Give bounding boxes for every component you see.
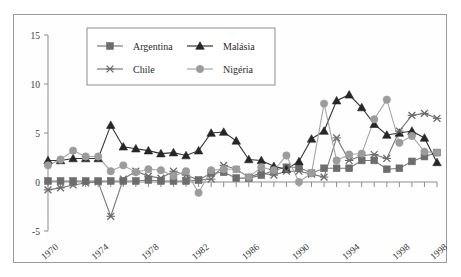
data-point [145, 166, 152, 173]
series-line-nigéria [48, 100, 437, 193]
legend-label: Chile [133, 64, 155, 75]
data-point [258, 164, 265, 171]
data-point [107, 213, 115, 220]
x-tick-label-group: 1998 [428, 242, 449, 262]
x-tick-label: 1982 [190, 242, 211, 262]
x-tick-label-group: 1990 [290, 242, 311, 262]
data-point [383, 96, 390, 103]
data-point [44, 162, 51, 169]
data-point [69, 147, 76, 154]
data-point [195, 189, 202, 196]
data-point [383, 155, 391, 162]
data-point [295, 157, 304, 165]
data-point [120, 162, 127, 169]
data-point [420, 110, 428, 117]
data-point [408, 112, 416, 119]
data-point [107, 178, 114, 185]
x-tick-label: 1986 [240, 242, 261, 262]
data-point [433, 158, 442, 166]
data-point [57, 156, 64, 163]
series-markers-argentina [45, 149, 441, 184]
data-point [220, 166, 227, 173]
x-tick-label: 1998 [428, 242, 449, 262]
data-point [219, 128, 228, 136]
data-point [45, 178, 52, 185]
data-point [270, 167, 277, 174]
data-point [132, 169, 139, 176]
legend-label: Argentina [133, 41, 173, 52]
data-point [383, 166, 390, 173]
series-markers-malásia [44, 91, 442, 173]
data-point [396, 139, 403, 146]
x-tick-label: 1970 [39, 242, 60, 262]
x-tick-label-group: 1974 [89, 242, 110, 262]
series-line-malásia [48, 95, 437, 169]
legend-label: Malásia [223, 41, 255, 52]
legend-marker-circle-icon [196, 65, 203, 72]
data-point [332, 96, 341, 104]
data-point [333, 165, 340, 172]
legend-label: Nigéria [223, 64, 254, 75]
data-point [408, 132, 415, 139]
x-tick-label-group: 1994 [340, 242, 361, 262]
x-tick-label-group: 1986 [240, 242, 261, 262]
x-tick-label: 1994 [340, 242, 361, 262]
series-markers-chile [44, 110, 441, 220]
data-point [420, 134, 429, 142]
data-point [433, 115, 441, 122]
data-point [283, 152, 290, 159]
line-chart: -505101519701974197819821986199019941998… [0, 0, 461, 277]
data-point [320, 174, 328, 181]
data-point [183, 178, 190, 185]
data-point [157, 167, 164, 174]
data-point [307, 135, 316, 143]
data-point [207, 167, 214, 174]
data-point [119, 142, 128, 150]
data-point [321, 165, 328, 172]
data-point [358, 150, 365, 157]
data-point [82, 153, 89, 160]
series-line-chile [48, 113, 437, 216]
data-point [308, 169, 315, 176]
y-tick-label: 15 [31, 31, 41, 41]
x-tick-label: 1974 [89, 242, 110, 262]
data-point [94, 153, 101, 160]
data-point [409, 158, 416, 165]
x-tick-label: 1998 [391, 242, 412, 262]
data-point [194, 146, 203, 154]
x-tick-label-group: 1998 [391, 242, 412, 262]
x-tick-label-group: 1970 [39, 242, 60, 262]
data-point [245, 173, 252, 180]
data-point [333, 157, 340, 164]
x-tick-label-group: 1978 [140, 242, 161, 262]
data-point [232, 137, 241, 145]
data-point [233, 166, 240, 173]
data-point [132, 178, 139, 185]
legend-marker-square-icon [107, 43, 114, 50]
data-point [106, 121, 115, 129]
y-tick-label: 10 [31, 80, 41, 90]
chart-page: -505101519701974197819821986199019941998… [0, 0, 461, 277]
y-tick-label: 5 [35, 129, 40, 139]
data-point [396, 165, 403, 172]
x-tick-label: 1990 [290, 242, 311, 262]
data-point [170, 172, 177, 179]
data-point [371, 116, 378, 123]
data-point [169, 148, 178, 156]
data-point [421, 148, 428, 155]
data-point [95, 178, 102, 185]
data-point [57, 178, 64, 185]
data-point [433, 149, 440, 156]
data-point [332, 135, 340, 142]
y-tick-label: -5 [32, 227, 40, 237]
data-point [107, 168, 114, 175]
data-point [345, 91, 354, 99]
data-point [320, 100, 327, 107]
data-point [345, 151, 352, 158]
x-tick-label-group: 1982 [190, 242, 211, 262]
y-tick-label: 0 [35, 178, 40, 188]
legend-box [87, 28, 275, 85]
data-point [295, 178, 302, 185]
data-point [233, 175, 240, 182]
x-tick-label: 1978 [140, 242, 161, 262]
